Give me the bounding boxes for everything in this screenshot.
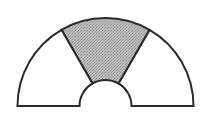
semi-annulus-diagram <box>0 0 208 119</box>
